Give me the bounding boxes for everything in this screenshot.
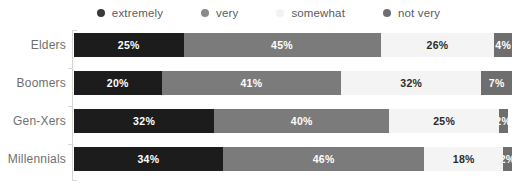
- legend-label-very: very: [216, 7, 238, 19]
- bar-segment-value: 32%: [400, 77, 422, 89]
- bar-segment-very[interactable]: 45%: [184, 33, 381, 57]
- legend-dot-not-very: [383, 9, 391, 17]
- bar-segment-not-very[interactable]: 7%: [481, 71, 512, 95]
- bar-segment-not-very[interactable]: 2%: [499, 109, 508, 133]
- bar-segment-value: 32%: [133, 115, 155, 127]
- category-label-elders: Elders: [0, 38, 66, 52]
- bar-row: Boomers20%41%32%7%: [0, 64, 519, 102]
- category-label-gen-xers: Gen-Xers: [0, 114, 66, 128]
- bar-segment-value: 41%: [240, 77, 262, 89]
- bar-segment-very[interactable]: 41%: [162, 71, 342, 95]
- bar-segment-value: 7%: [489, 77, 505, 89]
- legend-label-not-very: not very: [398, 7, 440, 19]
- bar-segment-value: 40%: [291, 115, 313, 127]
- bar-segment-value: 4%: [495, 39, 511, 51]
- category-label-boomers: Boomers: [0, 76, 66, 90]
- bar-segment-value: 25%: [433, 115, 455, 127]
- bar-segment-extremely[interactable]: 32%: [74, 109, 214, 133]
- bar-segment-extremely[interactable]: 25%: [74, 33, 184, 57]
- plot-area: Elders25%45%26%4%Boomers20%41%32%7%Gen-X…: [0, 26, 519, 185]
- bar-segment-extremely[interactable]: 20%: [74, 71, 162, 95]
- legend-item-somewhat[interactable]: somewhat: [276, 7, 345, 19]
- bar-segment-very[interactable]: 40%: [214, 109, 389, 133]
- bar-row: Elders25%45%26%4%: [0, 26, 519, 64]
- bar-segment-value: 46%: [313, 153, 335, 165]
- stacked-bar: 34%46%18%2%: [74, 147, 512, 171]
- chart-legend: extremely very somewhat not very: [0, 0, 519, 26]
- stacked-bar: 20%41%32%7%: [74, 71, 512, 95]
- bar-segment-value: 20%: [107, 77, 129, 89]
- bar-row: Gen-Xers32%40%25%2%: [0, 102, 519, 140]
- stacked-bar: 32%40%25%2%: [74, 109, 512, 133]
- legend-label-extremely: extremely: [112, 7, 163, 19]
- bar-segment-somewhat[interactable]: 25%: [389, 109, 499, 133]
- bar-segment-extremely[interactable]: 34%: [74, 147, 223, 171]
- legend-dot-extremely: [97, 9, 105, 17]
- bar-rows: Elders25%45%26%4%Boomers20%41%32%7%Gen-X…: [0, 26, 519, 185]
- bar-segment-value: 25%: [118, 39, 140, 51]
- bar-segment-value: 18%: [453, 153, 475, 165]
- bar-segment-somewhat[interactable]: 18%: [424, 147, 503, 171]
- bar-segment-not-very[interactable]: 2%: [503, 147, 512, 171]
- bar-segment-value: 26%: [427, 39, 449, 51]
- bar-segment-somewhat[interactable]: 32%: [341, 71, 481, 95]
- bar-segment-value: 34%: [137, 153, 159, 165]
- legend-item-very[interactable]: very: [201, 7, 238, 19]
- bar-segment-value: 45%: [271, 39, 293, 51]
- category-label-millennials: Millennials: [0, 152, 66, 166]
- stacked-bar-chart: extremely very somewhat not very Elders2…: [0, 0, 519, 185]
- legend-dot-somewhat: [276, 9, 284, 17]
- legend-item-not-very[interactable]: not very: [383, 7, 440, 19]
- bar-segment-somewhat[interactable]: 26%: [381, 33, 495, 57]
- legend-label-somewhat: somewhat: [291, 7, 345, 19]
- bar-segment-value: 2%: [503, 153, 512, 165]
- legend-item-extremely[interactable]: extremely: [97, 7, 163, 19]
- bar-segment-value: 2%: [499, 115, 508, 127]
- bar-segment-not-very[interactable]: 4%: [494, 33, 512, 57]
- legend-dot-very: [201, 9, 209, 17]
- bar-row: Millennials34%46%18%2%: [0, 140, 519, 178]
- bar-segment-very[interactable]: 46%: [223, 147, 424, 171]
- stacked-bar: 25%45%26%4%: [74, 33, 512, 57]
